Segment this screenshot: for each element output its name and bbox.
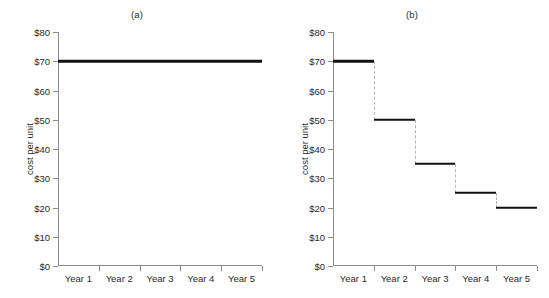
panel-a-plot-area: $0$10$20$30$40$50$60$70$80Year 1Year 2Ye… — [58, 32, 262, 266]
panel-b-y-tick-label: $20 — [309, 202, 325, 213]
panel-b-y-tick — [328, 237, 333, 238]
panel-a-y-tick-label: $50 — [34, 114, 50, 125]
panel-b-step-segment — [415, 162, 456, 165]
panel-b-y-tick-label: $10 — [309, 231, 325, 242]
panel-b-step-segment — [455, 192, 496, 195]
figure: (a) cost per unit $0$10$20$30$40$50$60$7… — [0, 0, 549, 298]
panel-a-title: (a) — [0, 9, 274, 20]
panel-b-y-tick-label: $80 — [309, 27, 325, 38]
panel-a-y-tick — [53, 237, 58, 238]
panel-b-x-tick — [537, 266, 538, 271]
panel-b-step-connector — [455, 164, 456, 193]
panel-a-x-tick — [99, 266, 100, 271]
panel-a-x-tick-label: Year 1 — [65, 273, 92, 284]
panel-a-y-tick — [53, 120, 58, 121]
panel-a-x-tick-label: Year 2 — [106, 273, 133, 284]
panel-b-x-tick-label: Year 3 — [421, 273, 448, 284]
panel-b-y-tick — [328, 32, 333, 33]
panel-b-x-tick — [496, 266, 497, 271]
panel-b-y-tick — [328, 266, 333, 267]
panel-b-title: (b) — [275, 9, 549, 20]
panel-a-y-tick — [53, 32, 58, 33]
panel-b-y-tick — [328, 91, 333, 92]
panel-a-x-tick-label: Year 4 — [187, 273, 214, 284]
panel-a-x-tick-label: Year 3 — [146, 273, 173, 284]
panel-b-y-tick-label: $70 — [309, 56, 325, 67]
panel-b-x-tick-label: Year 2 — [381, 273, 408, 284]
panel-b-x-axis-line — [333, 265, 537, 266]
panel-b-x-tick — [455, 266, 456, 271]
panel-a-data-line — [58, 60, 262, 63]
panel-b-y-axis-line — [333, 32, 334, 266]
panel-b-y-tick-label: $60 — [309, 85, 325, 96]
panel-b-x-tick — [374, 266, 375, 271]
panel-a-y-tick-label: $10 — [34, 231, 50, 242]
panel-b-x-tick — [415, 266, 416, 271]
panel-a-y-tick-label: $40 — [34, 144, 50, 155]
panel-b-step-connector — [374, 61, 375, 120]
panel-a-y-tick — [53, 91, 58, 92]
panel-b-y-tick — [328, 120, 333, 121]
panel-a-y-tick-label: $20 — [34, 202, 50, 213]
panel-b-step-segment — [374, 119, 415, 122]
panel-b-y-tick-label: $50 — [309, 114, 325, 125]
panel-b-y-tick — [328, 208, 333, 209]
panel-a-x-tick — [180, 266, 181, 271]
panel-a-y-tick-label: $0 — [39, 261, 50, 272]
panel-b-step-connector — [415, 120, 416, 164]
panel-a-x-tick — [140, 266, 141, 271]
panel-a-x-tick — [221, 266, 222, 271]
panel-b-step-segment — [333, 60, 374, 63]
panel-a-y-tick — [53, 149, 58, 150]
panel-a-x-axis-line — [58, 265, 262, 266]
panel-b-y-tick-label: $30 — [309, 173, 325, 184]
panel-a-y-tick-label: $60 — [34, 85, 50, 96]
panel-b-y-tick — [328, 178, 333, 179]
panel-b-x-tick-label: Year 1 — [340, 273, 367, 284]
panel-a-y-tick-label: $80 — [34, 27, 50, 38]
panel-b-plot-area: $0$10$20$30$40$50$60$70$80Year 1Year 2Ye… — [333, 32, 537, 266]
panel-b-x-tick-label: Year 5 — [503, 273, 530, 284]
panel-b-step-segment — [496, 206, 537, 209]
panel-a-y-tick — [53, 266, 58, 267]
chart-panel-a: (a) cost per unit $0$10$20$30$40$50$60$7… — [0, 0, 274, 298]
panel-a-x-tick-label: Year 5 — [228, 273, 255, 284]
panel-a-y-tick — [53, 208, 58, 209]
panel-b-x-tick-label: Year 4 — [462, 273, 489, 284]
panel-b-y-tick-label: $40 — [309, 144, 325, 155]
panel-a-y-tick-label: $30 — [34, 173, 50, 184]
panel-a-y-tick — [53, 178, 58, 179]
chart-panel-b: (b) cost per unit $0$10$20$30$40$50$60$7… — [275, 0, 549, 298]
panel-a-y-tick-label: $70 — [34, 56, 50, 67]
panel-b-y-tick-label: $0 — [314, 261, 325, 272]
panel-a-x-tick — [262, 266, 263, 271]
panel-b-y-tick — [328, 149, 333, 150]
panel-a-y-axis-line — [58, 32, 59, 266]
